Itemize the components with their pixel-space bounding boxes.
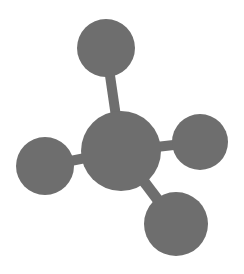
atom-bottom [144,192,208,256]
atom-top [77,19,135,77]
atom-right [172,114,228,170]
atom-left [16,137,74,195]
molecule-icon [0,0,244,274]
atom-center [81,111,161,191]
